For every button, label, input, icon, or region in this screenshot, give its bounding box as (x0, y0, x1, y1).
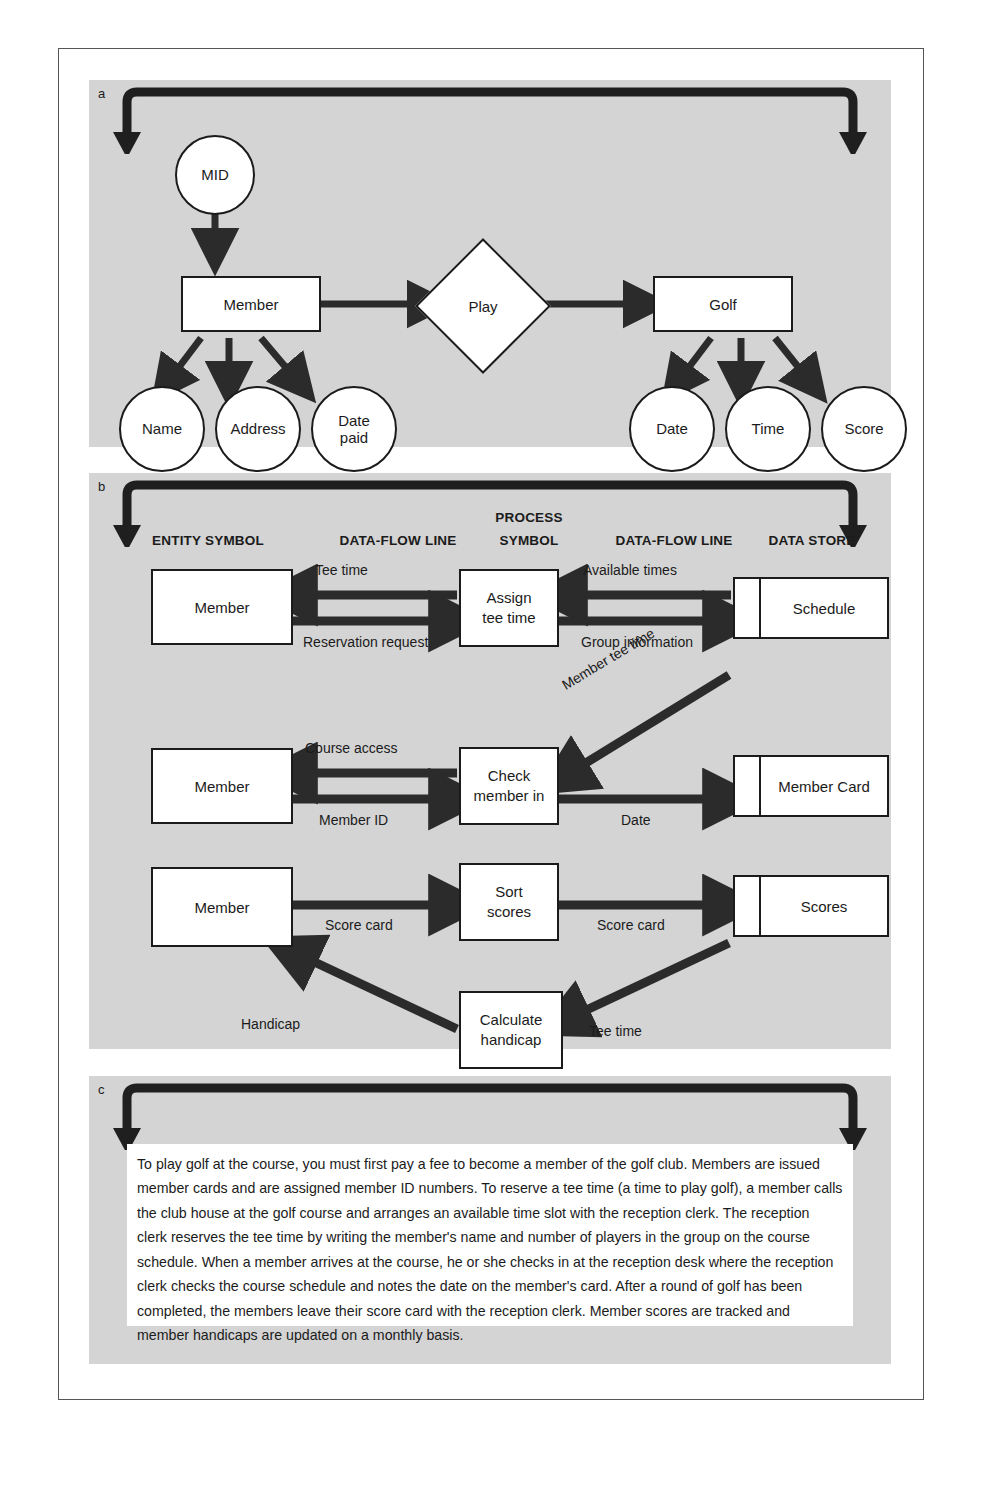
panel-b-data-flow-diagram: b ENTITY SYMBOL DATA-FLOW LINE PROCESS S… (89, 473, 891, 1049)
er-entity-golf-label: Golf (709, 296, 737, 313)
panel-b-label: b (98, 479, 105, 494)
panel-c-label: c (98, 1082, 105, 1097)
dfd-process-sort-scores: Sort scores (459, 863, 559, 941)
dfd-datastore-schedule: Schedule (733, 577, 889, 639)
flow-label-date: Date (621, 812, 651, 828)
dfd-datastore-schedule-tab (735, 579, 761, 637)
er-attribute-name-label: Name (142, 420, 182, 437)
er-attribute-time: Time (725, 386, 811, 472)
er-attribute-time-label: Time (752, 420, 785, 437)
flow-label-available-times: Available times (583, 562, 677, 578)
er-relationship-play: Play (435, 258, 531, 354)
panel-c-narrative: c To play golf at the course, you must f… (89, 1076, 891, 1364)
dfd-process-check-member-in-line2: member in (474, 786, 545, 806)
er-entity-member: Member (181, 276, 321, 332)
dfd-process-assign-tee-time-line1: Assign (486, 588, 531, 608)
er-entity-member-label: Member (223, 296, 278, 313)
er-attribute-mid-label: MID (201, 166, 229, 183)
figure-frame: a (58, 48, 924, 1400)
column-header-data-store: DATA STORE (737, 533, 887, 548)
dfd-entity-member-row3-label: Member (194, 899, 249, 916)
er-attribute-date: Date (629, 386, 715, 472)
dfd-process-assign-tee-time: Assign tee time (459, 569, 559, 647)
er-attribute-mid: MID (175, 135, 255, 215)
dfd-datastore-member-card-tab (735, 757, 761, 815)
panel-c-bracket (89, 1076, 891, 1150)
dfd-datastore-scores-tab (735, 877, 761, 935)
flow-label-tee-time-row3: Tee time (589, 1023, 642, 1039)
dfd-process-calculate-handicap: Calculate handicap (459, 991, 563, 1069)
column-header-data-flow-line-left: DATA-FLOW LINE (303, 533, 493, 548)
column-header-process-symbol-line1: PROCESS (469, 510, 589, 525)
dfd-process-calculate-handicap-line2: handicap (481, 1030, 542, 1050)
flow-label-tee-time: Tee time (315, 562, 368, 578)
dfd-process-check-member-in-line1: Check (488, 766, 531, 786)
dfd-entity-member-row3: Member (151, 867, 293, 947)
er-attribute-date-paid-line1: Date (338, 412, 370, 429)
flow-label-course-access: Course access (305, 740, 398, 756)
panel-a-label: a (98, 86, 105, 101)
dfd-datastore-member-card-label: Member Card (761, 778, 887, 795)
flow-label-handicap: Handicap (241, 1016, 300, 1032)
er-attribute-score: Score (821, 386, 907, 472)
flow-label-score-card-right: Score card (597, 917, 665, 933)
er-attribute-address: Address (215, 386, 301, 472)
dfd-datastore-scores: Scores (733, 875, 889, 937)
dfd-process-calculate-handicap-line1: Calculate (480, 1010, 543, 1030)
dfd-process-assign-tee-time-line2: tee time (482, 608, 535, 628)
er-attribute-date-paid-line2: paid (340, 429, 368, 446)
flow-label-score-card-left: Score card (325, 917, 393, 933)
er-attribute-date-label: Date (656, 420, 688, 437)
er-attribute-score-label: Score (844, 420, 883, 437)
dfd-process-sort-scores-line1: Sort (495, 882, 523, 902)
dfd-entity-member-row1: Member (151, 569, 293, 645)
dfd-entity-member-row2-label: Member (194, 778, 249, 795)
flow-label-member-id: Member ID (319, 812, 388, 828)
dfd-entity-member-row2: Member (151, 748, 293, 824)
dfd-datastore-schedule-label: Schedule (761, 600, 887, 617)
panel-a-er-diagram: a (89, 80, 891, 447)
dfd-datastore-scores-label: Scores (761, 898, 887, 915)
dfd-datastore-member-card: Member Card (733, 755, 889, 817)
column-header-entity-symbol: ENTITY SYMBOL (113, 533, 303, 548)
er-relationship-play-label: Play (468, 298, 497, 315)
dfd-process-check-member-in: Check member in (459, 747, 559, 825)
er-attribute-name: Name (119, 386, 205, 472)
column-header-process-symbol-line2: SYMBOL (469, 533, 589, 548)
er-entity-golf: Golf (653, 276, 793, 332)
dfd-process-sort-scores-line2: scores (487, 902, 531, 922)
er-attribute-date-paid: Date paid (311, 386, 397, 472)
narrative-text-box: To play golf at the course, you must fir… (127, 1144, 853, 1326)
dfd-entity-member-row1-label: Member (194, 599, 249, 616)
narrative-paragraph: To play golf at the course, you must fir… (137, 1152, 843, 1347)
flow-label-reservation-request: Reservation request (303, 634, 428, 650)
er-attribute-address-label: Address (230, 420, 285, 437)
